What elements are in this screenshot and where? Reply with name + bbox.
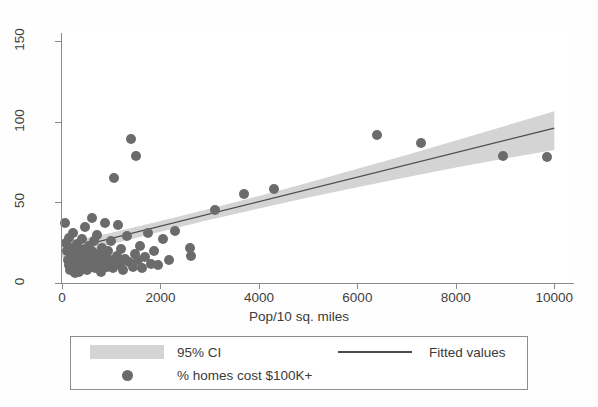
scatter-plot-figure: 050100150 0200040006000800010000 Pop/10 … <box>0 0 598 407</box>
legend-item-fitted[interactable]: Fitted values <box>329 341 506 363</box>
x-axis-tick-label: 0 <box>58 290 66 305</box>
scatter-point <box>372 130 382 140</box>
x-axis-tick-label: 6000 <box>342 290 372 305</box>
scatter-point <box>542 152 552 162</box>
scatter-point <box>153 260 163 270</box>
scatter-point <box>158 234 168 244</box>
legend-label-ci: 95% CI <box>173 345 221 360</box>
scatter-point <box>210 205 220 215</box>
scatter-point <box>131 151 141 161</box>
scatter-point <box>416 138 426 148</box>
y-axis-tick-label: 150 <box>12 18 27 62</box>
x-axis-tick <box>456 283 457 289</box>
scatter-marker-swatch <box>81 370 173 381</box>
scatter-point <box>186 251 196 261</box>
scatter-point <box>269 184 279 194</box>
scatter-point <box>92 230 102 240</box>
scatter-point <box>109 173 119 183</box>
y-axis-tick <box>55 41 62 42</box>
scatter-point <box>113 220 123 230</box>
fitted-line-swatch <box>329 351 421 353</box>
scatter-point <box>164 255 174 265</box>
legend-item-ci[interactable]: 95% CI <box>81 341 221 363</box>
scatter-point <box>135 241 145 251</box>
confidence-interval-band <box>62 111 554 258</box>
legend-label-fitted: Fitted values <box>421 345 506 360</box>
legend-item-scatter[interactable]: % homes cost $100K+ <box>81 364 312 386</box>
y-axis-tick-label: 50 <box>12 179 27 223</box>
scatter-point <box>116 244 126 254</box>
y-axis-tick-label: 0 <box>12 260 27 304</box>
scatter-point <box>100 218 110 228</box>
x-axis-tick-label: 8000 <box>441 290 471 305</box>
scatter-point <box>498 151 508 161</box>
scatter-point <box>170 226 180 236</box>
x-axis-tick-label: 2000 <box>145 290 175 305</box>
fitted-values-line <box>62 128 554 251</box>
scatter-point <box>122 231 132 241</box>
x-axis-tick-label: 4000 <box>244 290 274 305</box>
x-axis-tick <box>259 283 260 289</box>
y-axis-tick <box>55 122 62 123</box>
y-axis-tick <box>55 202 62 203</box>
x-axis-tick <box>554 283 555 289</box>
x-axis-line <box>61 283 574 284</box>
x-axis-tick-label: 10000 <box>536 290 574 305</box>
y-axis-line <box>61 33 62 283</box>
scatter-point <box>149 246 159 256</box>
scatter-point <box>143 228 153 238</box>
plot-area <box>62 33 574 283</box>
chart-legend: 95% CI Fitted values % homes cost $100K+ <box>70 336 528 390</box>
scatter-point <box>87 213 97 223</box>
y-axis-tick-label: 100 <box>12 98 27 142</box>
scatter-point <box>239 189 249 199</box>
x-axis-title: Pop/10 sq. miles <box>0 309 598 324</box>
legend-label-scatter: % homes cost $100K+ <box>173 368 312 383</box>
scatter-point <box>126 134 136 144</box>
scatter-point <box>106 236 116 246</box>
x-axis-tick <box>357 283 358 289</box>
y-axis-tick <box>55 283 62 284</box>
x-axis-tick <box>160 283 161 289</box>
ci-band-swatch <box>81 345 173 359</box>
x-axis-tick <box>62 283 63 289</box>
